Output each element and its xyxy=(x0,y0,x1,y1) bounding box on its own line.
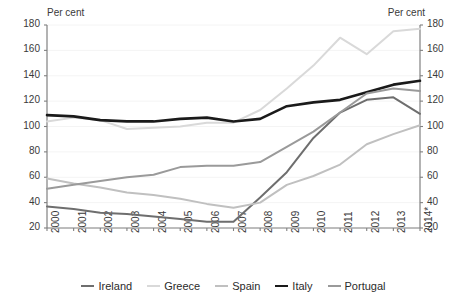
axis-lines xyxy=(44,25,423,231)
series-line-portugal xyxy=(47,88,420,188)
legend-swatch-italy-icon xyxy=(275,285,288,287)
legend-swatch-portugal-icon xyxy=(328,285,341,287)
series-lines xyxy=(47,29,420,222)
legend-item-ireland[interactable]: Ireland xyxy=(81,280,132,292)
legend-item-italy[interactable]: Italy xyxy=(275,280,312,292)
legend-swatch-spain-icon xyxy=(215,285,228,287)
legend-swatch-ireland-icon xyxy=(81,285,94,287)
chart-legend: IrelandGreeceSpainItalyPortugal xyxy=(0,280,467,292)
legend-item-portugal[interactable]: Portugal xyxy=(328,280,386,292)
legend-item-spain[interactable]: Spain xyxy=(215,280,260,292)
legend-swatch-greece-icon xyxy=(147,285,160,287)
chart-container: Per cent Per cent 2040608010012014016018… xyxy=(0,0,467,296)
legend-label-greece: Greece xyxy=(164,280,200,292)
gridlines xyxy=(47,25,420,228)
legend-item-greece[interactable]: Greece xyxy=(147,280,200,292)
legend-label-spain: Spain xyxy=(232,280,260,292)
series-line-greece xyxy=(47,29,420,129)
legend-label-italy: Italy xyxy=(292,280,312,292)
plot-area xyxy=(0,0,467,296)
legend-label-ireland: Ireland xyxy=(98,280,132,292)
legend-label-portugal: Portugal xyxy=(345,280,386,292)
